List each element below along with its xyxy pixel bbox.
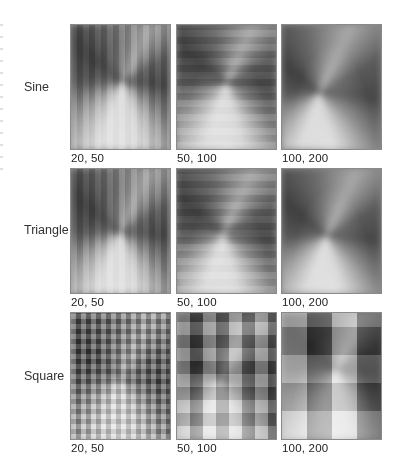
caption-triangle-20-50: 20, 50 [71,296,104,308]
caption-triangle-50-100: 50, 100 [177,296,217,308]
triangle-panel-100-200 [281,168,382,294]
caption-sine-20-50: 20, 50 [71,152,104,164]
sine-panel-50-100 [176,24,277,150]
caption-sine-100-200: 100, 200 [282,152,328,164]
row-label-sine: Sine [24,80,49,94]
sine-panel-20-50 [70,24,171,150]
triangle-panel-20-50 [70,168,171,294]
square-panel-20-50 [70,312,171,440]
caption-square-100-200: 100, 200 [282,442,328,454]
square-panel-100-200 [281,312,382,440]
sine-panel-100-200 [281,24,382,150]
triangle-panel-50-100 [176,168,277,294]
caption-square-20-50: 20, 50 [71,442,104,454]
caption-sine-50-100: 50, 100 [177,152,217,164]
row-label-square: Square [24,369,64,383]
clipped-margin-text [0,24,3,174]
square-panel-50-100 [176,312,277,440]
caption-triangle-100-200: 100, 200 [282,296,328,308]
row-label-triangle: Triangle [24,223,69,237]
caption-square-50-100: 50, 100 [177,442,217,454]
